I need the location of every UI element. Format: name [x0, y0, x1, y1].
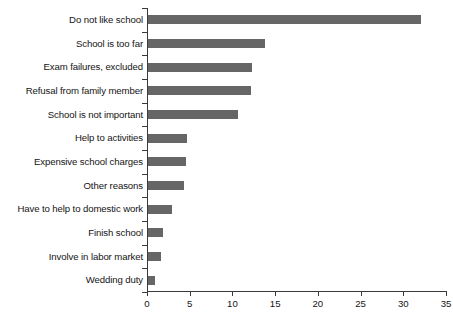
- bar-rows: Do not like schoolSchool is too farExam …: [0, 8, 453, 292]
- category-label: School is not important: [48, 103, 143, 127]
- bar-row: Have to help to domestic work: [0, 197, 453, 221]
- bar-row: School is not important: [0, 103, 453, 127]
- bar-row: Expensive school charges: [0, 150, 453, 174]
- y-axis-tick: [142, 32, 147, 33]
- bar-row: Finish school: [0, 221, 453, 245]
- category-label: Exam failures, excluded: [43, 55, 143, 79]
- bar: [148, 134, 187, 143]
- y-axis-tick: [142, 79, 147, 80]
- bar: [148, 205, 172, 214]
- x-axis-tick: [232, 291, 233, 296]
- x-axis-tick-label: 10: [227, 298, 238, 309]
- y-axis-tick: [142, 174, 147, 175]
- x-axis-tick: [275, 291, 276, 296]
- bar-row: Exam failures, excluded: [0, 55, 453, 79]
- bar: [148, 63, 252, 72]
- bar-row: Involve in labor market: [0, 245, 453, 269]
- y-axis-tick: [142, 221, 147, 222]
- category-label: Involve in labor market: [49, 245, 143, 269]
- x-axis-tick-label: 5: [187, 298, 192, 309]
- x-axis-tick-label: 20: [313, 298, 324, 309]
- bar: [148, 110, 238, 119]
- bar: [148, 157, 186, 166]
- x-axis-tick-label: 15: [270, 298, 281, 309]
- x-axis-tick: [446, 291, 447, 296]
- x-axis-tick: [403, 291, 404, 296]
- category-label: Do not like school: [69, 8, 143, 32]
- x-axis-tick: [361, 291, 362, 296]
- y-axis-tick: [142, 8, 147, 9]
- bar-row: Do not like school: [0, 8, 453, 32]
- category-label: Have to help to domestic work: [17, 197, 143, 221]
- category-label: Refusal from family member: [26, 79, 143, 103]
- bar: [148, 181, 184, 190]
- category-label: Finish school: [88, 221, 143, 245]
- y-axis-tick: [142, 197, 147, 198]
- y-axis-tick: [142, 55, 147, 56]
- x-axis-ticks: 05101520253035: [0, 291, 453, 320]
- bar: [148, 15, 421, 24]
- bar-row: School is too far: [0, 32, 453, 56]
- y-axis-tick: [142, 268, 147, 269]
- bar: [148, 86, 251, 95]
- category-label: Other reasons: [84, 174, 144, 198]
- x-axis-tick: [318, 291, 319, 296]
- bar-chart: Do not like schoolSchool is too farExam …: [0, 0, 453, 320]
- y-axis-tick: [142, 245, 147, 246]
- x-axis-tick-label: 0: [144, 298, 149, 309]
- x-axis-tick: [190, 291, 191, 296]
- category-label: Expensive school charges: [34, 150, 143, 174]
- bar: [148, 276, 155, 285]
- y-axis-tick: [142, 150, 147, 151]
- bar-row: Wedding duty: [0, 268, 453, 292]
- x-axis-tick: [147, 291, 148, 296]
- bar-row: Refusal from family member: [0, 79, 453, 103]
- category-label: Help to activities: [75, 126, 143, 150]
- x-axis-tick-label: 35: [441, 298, 452, 309]
- y-axis-tick: [142, 126, 147, 127]
- x-axis-tick-label: 25: [355, 298, 366, 309]
- bar: [148, 252, 161, 261]
- category-label: School is too far: [76, 32, 143, 56]
- x-axis-tick-label: 30: [398, 298, 409, 309]
- y-axis-tick: [142, 103, 147, 104]
- bar: [148, 39, 265, 48]
- bar: [148, 228, 163, 237]
- bar-row: Other reasons: [0, 174, 453, 198]
- bar-row: Help to activities: [0, 126, 453, 150]
- category-label: Wedding duty: [86, 268, 143, 292]
